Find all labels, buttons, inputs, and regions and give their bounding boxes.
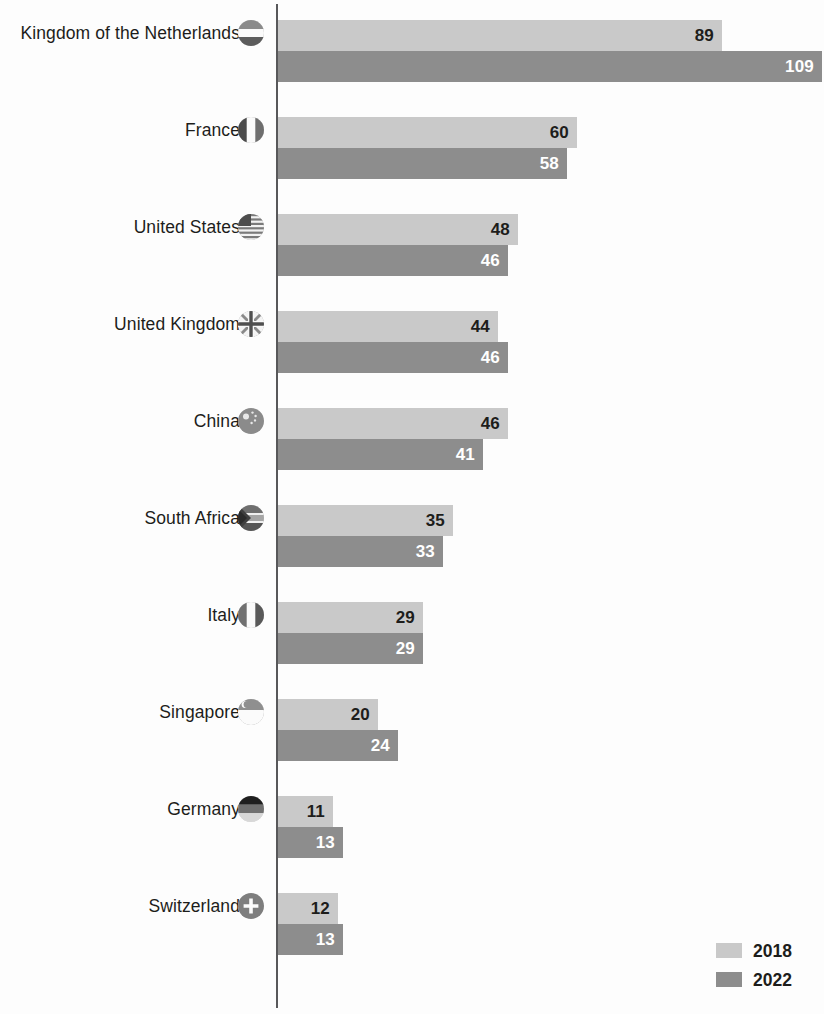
bar-value-label: 46 xyxy=(481,342,500,373)
chart-legend: 2018 2022 xyxy=(716,938,792,996)
flag-south-africa-icon xyxy=(238,505,264,531)
bar-2018: 46 xyxy=(278,408,508,439)
bar-value-label: 46 xyxy=(481,408,500,439)
flag-germany-icon xyxy=(238,796,264,822)
category-label: Singapore xyxy=(0,701,240,723)
category-label: France xyxy=(0,119,240,141)
bar-2022: 41 xyxy=(278,439,483,470)
bar-2022: 46 xyxy=(278,342,508,373)
flag-china-icon xyxy=(238,408,264,434)
bar-2022: 58 xyxy=(278,148,567,179)
chart-row: China4641 xyxy=(0,388,824,485)
bar-2018: 48 xyxy=(278,214,518,245)
bar-value-label: 29 xyxy=(396,633,415,664)
category-label: China xyxy=(0,410,240,432)
bar-group: 6058 xyxy=(278,117,577,179)
flag-switzerland-icon xyxy=(238,893,264,919)
bar-group: 1113 xyxy=(278,796,343,858)
bar-2022: 13 xyxy=(278,827,343,858)
bar-value-label: 46 xyxy=(481,245,500,276)
chart-row: United Kingdom4446 xyxy=(0,291,824,388)
bar-value-label: 109 xyxy=(785,51,814,82)
legend-item-2022: 2022 xyxy=(716,967,792,992)
bar-2018: 11 xyxy=(278,796,333,827)
bar-value-label: 58 xyxy=(540,148,559,179)
bar-value-label: 13 xyxy=(316,924,335,955)
legend-swatch-2018 xyxy=(716,943,742,958)
bar-group: 4846 xyxy=(278,214,518,276)
bar-2022: 24 xyxy=(278,730,398,761)
bar-2018: 89 xyxy=(278,20,722,51)
flag-italy-icon xyxy=(238,602,264,628)
legend-label-2018: 2018 xyxy=(753,941,792,961)
flag-netherlands-icon xyxy=(238,20,264,46)
bar-group: 4446 xyxy=(278,311,508,373)
bar-value-label: 48 xyxy=(491,214,510,245)
bar-chart: Kingdom of the Netherlands89109France605… xyxy=(0,0,824,1014)
bar-value-label: 44 xyxy=(471,311,490,342)
category-label: United States xyxy=(0,216,240,238)
bar-value-label: 11 xyxy=(307,796,325,827)
bar-value-label: 41 xyxy=(456,439,475,470)
bar-2018: 12 xyxy=(278,893,338,924)
bar-2022: 46 xyxy=(278,245,508,276)
bar-2018: 44 xyxy=(278,311,498,342)
bar-group: 3533 xyxy=(278,505,453,567)
category-label: South Africa xyxy=(0,507,240,529)
bar-2022: 13 xyxy=(278,924,343,955)
category-label: Germany xyxy=(0,798,240,820)
chart-row: Italy2929 xyxy=(0,582,824,679)
chart-row: Singapore2024 xyxy=(0,679,824,776)
bar-group: 2024 xyxy=(278,699,398,761)
bar-2018: 29 xyxy=(278,602,423,633)
bar-value-label: 89 xyxy=(695,20,714,51)
flag-united-states-icon xyxy=(238,214,264,240)
bar-value-label: 12 xyxy=(311,893,330,924)
legend-swatch-2022 xyxy=(716,972,742,987)
bar-value-label: 60 xyxy=(550,117,569,148)
category-label: Italy xyxy=(0,604,240,626)
chart-row: United States4846 xyxy=(0,194,824,291)
legend-label-2022: 2022 xyxy=(753,970,792,990)
category-label: Switzerland xyxy=(0,895,240,917)
chart-row: Germany1113 xyxy=(0,776,824,873)
bar-value-label: 35 xyxy=(426,505,445,536)
category-label: United Kingdom xyxy=(0,313,240,335)
bar-2022: 33 xyxy=(278,536,443,567)
chart-row: South Africa3533 xyxy=(0,485,824,582)
bar-2018: 60 xyxy=(278,117,577,148)
bar-value-label: 29 xyxy=(396,602,415,633)
flag-united-kingdom-icon xyxy=(238,311,264,337)
bar-2018: 20 xyxy=(278,699,378,730)
bar-group: 4641 xyxy=(278,408,508,470)
bar-group: 89109 xyxy=(278,20,822,82)
bar-2018: 35 xyxy=(278,505,453,536)
chart-row: France6058 xyxy=(0,97,824,194)
bar-group: 2929 xyxy=(278,602,423,664)
chart-row: Kingdom of the Netherlands89109 xyxy=(0,0,824,97)
bar-value-label: 33 xyxy=(416,536,435,567)
bar-value-label: 13 xyxy=(316,827,335,858)
legend-item-2018: 2018 xyxy=(716,938,792,963)
chart-row: Switzerland1213 xyxy=(0,873,824,970)
category-label: Kingdom of the Netherlands xyxy=(0,22,240,44)
bar-value-label: 20 xyxy=(351,699,370,730)
plot-area: Kingdom of the Netherlands89109France605… xyxy=(0,0,824,1014)
bar-group: 1213 xyxy=(278,893,343,955)
flag-france-icon xyxy=(238,117,264,143)
bar-2022: 29 xyxy=(278,633,423,664)
flag-singapore-icon xyxy=(238,699,264,725)
bar-value-label: 24 xyxy=(371,730,390,761)
bar-2022: 109 xyxy=(278,51,822,82)
